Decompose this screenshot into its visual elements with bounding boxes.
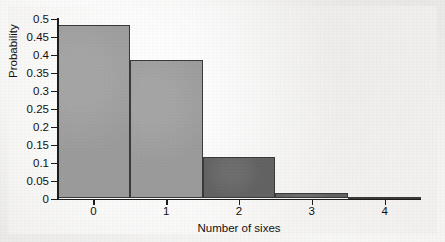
y-tick-label-1: 0.05 bbox=[3, 176, 49, 188]
y-tick-label-3: 0.15 bbox=[3, 140, 49, 152]
y-tick-label-2: 0.1 bbox=[3, 158, 49, 170]
bar-2 bbox=[203, 157, 276, 199]
bar-1 bbox=[130, 60, 203, 199]
y-tick-label-6: 0.3 bbox=[3, 86, 49, 98]
x-tick-label-0: 0 bbox=[73, 206, 113, 218]
x-tick-label-4: 4 bbox=[365, 206, 405, 218]
x-tick-label-3: 3 bbox=[292, 206, 332, 218]
y-axis-line bbox=[57, 18, 59, 200]
chart-figure: 0 0.05 0.1 0.15 0.2 0.25 0.3 0.35 0.4 0.… bbox=[0, 0, 445, 242]
bar-0 bbox=[57, 25, 130, 199]
y-axis-title: Probability bbox=[8, 24, 20, 78]
x-tick-label-1: 1 bbox=[146, 206, 186, 218]
y-tick-label-0: 0 bbox=[3, 194, 49, 206]
y-tick-label-4: 0.2 bbox=[3, 122, 49, 134]
x-tick-label-2: 2 bbox=[219, 206, 259, 218]
x-axis-title: Number of sixes bbox=[57, 223, 421, 235]
y-tick-label-5: 0.25 bbox=[3, 104, 49, 116]
